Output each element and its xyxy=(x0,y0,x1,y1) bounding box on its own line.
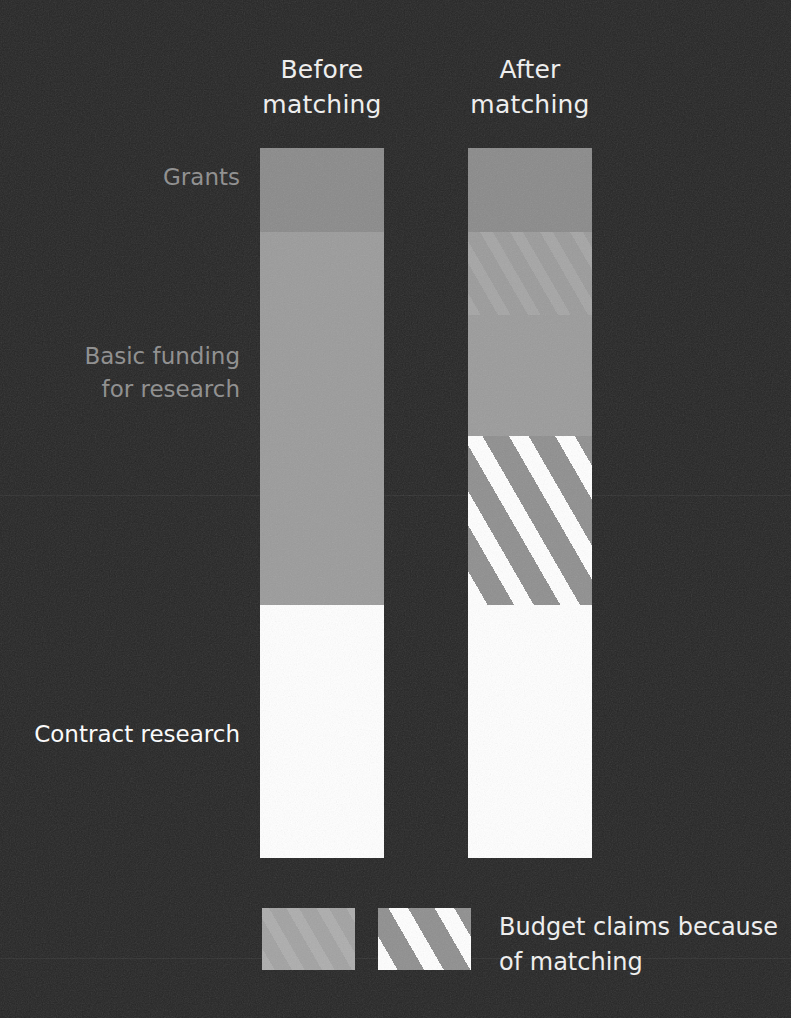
column-header-before-matching: Before matching xyxy=(233,52,411,122)
bar-before-matching xyxy=(260,148,384,858)
background-rule-upper xyxy=(0,495,791,496)
segment-basic-funding-before xyxy=(260,232,384,605)
segment-grants-before xyxy=(260,148,384,232)
segment-budget-claims-faint-after xyxy=(468,232,592,315)
legend-swatch-striped xyxy=(378,908,471,970)
segment-contract-research-after xyxy=(468,605,592,858)
column-header-after-line1: After xyxy=(441,52,619,87)
column-header-before-line2: matching xyxy=(233,87,411,122)
column-header-before-line1: Before xyxy=(233,52,411,87)
category-label-basic-funding-line2: for research xyxy=(20,373,240,406)
segment-budget-claims-striped-after xyxy=(468,436,592,605)
legend-label-budget-claims: Budget claims because of matching xyxy=(499,908,791,980)
bar-after-matching xyxy=(468,148,592,858)
category-label-contract-research: Contract research xyxy=(0,718,240,751)
legend-label-line1: Budget claims because xyxy=(499,910,791,945)
legend: Budget claims because of matching xyxy=(262,908,791,980)
category-label-grants: Grants xyxy=(20,161,240,194)
column-header-after-line2: matching xyxy=(441,87,619,122)
legend-label-line2: of matching xyxy=(499,945,791,980)
segment-basic-funding-after xyxy=(468,315,592,436)
category-label-basic-funding: Basic funding for research xyxy=(20,340,240,406)
legend-swatch-faint xyxy=(262,908,355,970)
segment-contract-research-before xyxy=(260,605,384,858)
column-header-after-matching: After matching xyxy=(441,52,619,122)
category-label-basic-funding-line1: Basic funding xyxy=(20,340,240,373)
film-grain-overlay xyxy=(0,0,791,1018)
segment-grants-after xyxy=(468,148,592,232)
